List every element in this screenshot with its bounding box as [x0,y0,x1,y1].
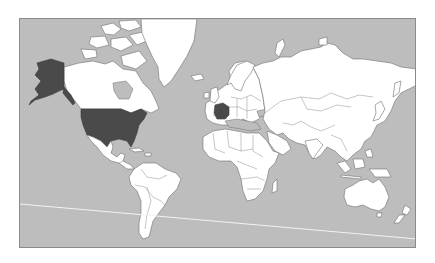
severnaya-zemlya [319,37,327,45]
india [305,139,323,159]
canada [64,61,159,113]
cuba [129,148,144,152]
hispaniola [145,153,151,156]
new-zealand [402,205,411,215]
iceland [191,74,204,81]
ireland [204,92,209,98]
southern-line [20,204,416,239]
world-map [20,19,416,248]
alaska [29,59,64,105]
new-zealand-south [394,215,405,223]
greenland [141,19,197,87]
madagascar [272,179,277,193]
australia [344,179,389,211]
novaya-zemlya [275,39,285,57]
world-map-frame [19,18,416,248]
tasmania [377,213,382,217]
south-america [129,163,181,239]
france [214,103,229,119]
